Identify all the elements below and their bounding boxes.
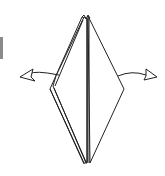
right-arrow-icon — [118, 69, 157, 80]
origami-diagram — [0, 0, 165, 176]
right-flap — [88, 16, 124, 163]
left-flap-front — [53, 17, 87, 162]
left-arrow-icon — [20, 69, 59, 81]
